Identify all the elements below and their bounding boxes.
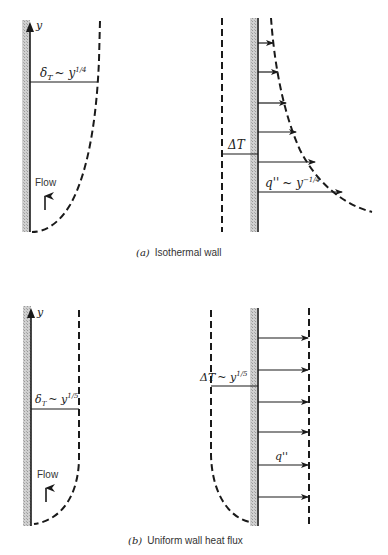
boundary-layer-label: δT~ y1/5: [35, 392, 79, 408]
wall-hatch: [250, 308, 257, 526]
convection-diagram: y δT~ y1/4 Flow ΔT q''~ y−1/4: [0, 0, 388, 555]
panel-b-boundary-layer: y δT~ y1/5 Flow: [23, 306, 79, 526]
panel-a: y δT~ y1/4 Flow ΔT q''~ y−1/4: [22, 18, 372, 258]
y-axis-label: y: [36, 306, 44, 319]
heat-flux-label: q'': [275, 450, 288, 463]
panel-b-heat-flux: ΔT~ y1/5 q'': [199, 308, 309, 526]
delta-t-label: ΔT~ y1/5: [199, 370, 248, 384]
flow-label: Flow: [35, 177, 57, 188]
heat-flux-label: q''~ y−1/4: [265, 176, 320, 190]
wall-hatch: [22, 20, 30, 232]
thermal-boundary-layer-curve: [32, 21, 100, 232]
panel-a-boundary-layer: y δT~ y1/4 Flow: [22, 19, 100, 232]
panel-b: y δT~ y1/5 Flow ΔT~ y1/5: [23, 306, 309, 546]
thermal-boundary-layer-curve: [34, 310, 79, 524]
wall-hatch: [23, 306, 31, 526]
panel-a-heat-flux: ΔT q''~ y−1/4: [222, 18, 372, 232]
caption-b: (b)Uniform wall heat flux: [128, 535, 243, 546]
y-axis-label: y: [35, 19, 43, 32]
caption-a: (a)Isothermal wall: [136, 247, 221, 258]
boundary-layer-label: δT~ y1/4: [40, 66, 87, 82]
delta-t-label: ΔT: [227, 138, 246, 152]
temperature-profile-curve: [211, 310, 250, 522]
wall-hatch: [250, 18, 257, 232]
flow-label: Flow: [37, 469, 59, 480]
